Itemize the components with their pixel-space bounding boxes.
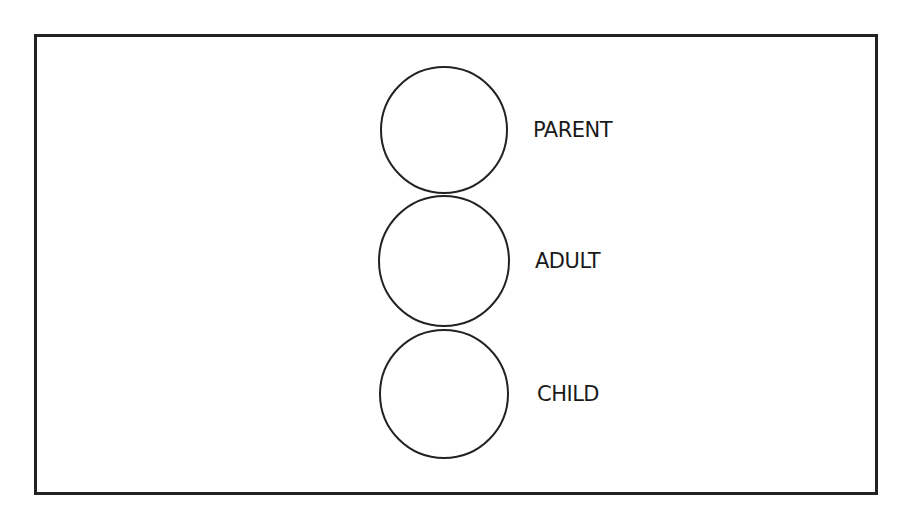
child-label: CHILD bbox=[537, 384, 599, 405]
adult-circle bbox=[379, 196, 509, 326]
parent-label: PARENT bbox=[533, 120, 612, 141]
parent-circle bbox=[381, 67, 507, 193]
adult-label: ADULT bbox=[535, 251, 600, 272]
child-circle bbox=[380, 330, 508, 458]
ego-state-circles bbox=[0, 0, 909, 527]
